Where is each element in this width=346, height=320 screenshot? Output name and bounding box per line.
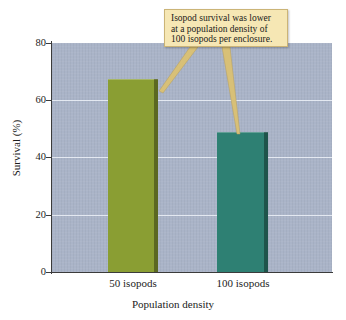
plot-area bbox=[52, 43, 332, 272]
y-tick-20 bbox=[46, 215, 51, 216]
x-axis-line bbox=[51, 272, 333, 273]
chart-figure: 80 60 40 20 0 Survival (%) 50 isopods 10… bbox=[0, 0, 346, 320]
bar-top-edge bbox=[108, 79, 158, 80]
y-tick-label-0: 0 bbox=[20, 267, 46, 278]
callout-line-3: 100 isopods per enclosure. bbox=[171, 34, 282, 45]
y-tick-80 bbox=[46, 43, 51, 44]
y-tick-label-60: 60 bbox=[20, 95, 46, 106]
x-axis-title: Population density bbox=[0, 298, 346, 310]
bar-50-isopods[interactable] bbox=[108, 79, 158, 272]
y-tick-label-80: 80 bbox=[20, 38, 46, 49]
y-tick-40 bbox=[46, 157, 51, 158]
bar-100-isopods[interactable] bbox=[217, 132, 268, 272]
annotation-callout[interactable]: Isopod survival was lower at a populatio… bbox=[164, 9, 288, 47]
y-axis-title: Survival (%) bbox=[10, 88, 22, 208]
bar-top-edge bbox=[217, 132, 268, 133]
y-tick-0 bbox=[46, 272, 51, 273]
bar-side-shadow bbox=[264, 132, 268, 272]
bar-face bbox=[108, 79, 158, 272]
gridline-60 bbox=[52, 100, 332, 101]
y-tick-label-20: 20 bbox=[20, 210, 46, 221]
y-axis-line bbox=[51, 41, 52, 274]
gridline-20 bbox=[52, 215, 332, 216]
callout-line-2: at a population density of bbox=[171, 24, 282, 35]
gridline-40 bbox=[52, 157, 332, 158]
callout-line-1: Isopod survival was lower bbox=[171, 13, 282, 24]
y-tick-label-40: 40 bbox=[20, 152, 46, 163]
y-tick-60 bbox=[46, 100, 51, 101]
bar-face bbox=[217, 132, 268, 272]
x-tick-label-50-isopods: 50 isopods bbox=[73, 277, 193, 289]
x-tick-label-100-isopods: 100 isopods bbox=[183, 277, 303, 289]
bar-side-shadow bbox=[154, 79, 158, 272]
